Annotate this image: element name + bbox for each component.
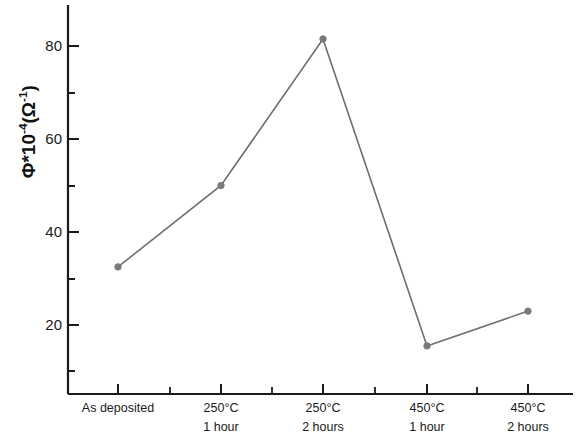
data-series-markers	[115, 36, 531, 349]
data-point	[525, 308, 531, 314]
chart-figure: Φ*10-4(Ω-1) 80 60 40 20 As deposited 250…	[0, 0, 577, 442]
data-point	[218, 182, 224, 188]
x-axis-major-ticks	[118, 384, 528, 394]
data-point	[320, 36, 326, 42]
data-point	[424, 343, 430, 349]
data-point	[115, 264, 121, 270]
chart-canvas	[0, 0, 577, 442]
data-series-line	[118, 39, 528, 346]
